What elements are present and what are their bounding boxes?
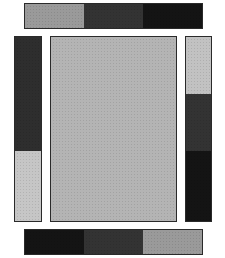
right-column-segment-2 [186, 94, 211, 150]
center-panel-segment-1 [51, 37, 176, 221]
top-bar-segment-1 [25, 4, 84, 28]
bottom-bar-segment-1 [25, 230, 84, 254]
right-column-segment-1 [186, 37, 211, 94]
bottom-bar [24, 229, 203, 255]
top-bar-segment-2 [84, 4, 142, 28]
left-column [14, 36, 42, 222]
bottom-bar-segment-2 [84, 230, 142, 254]
bottom-bar-segment-3 [143, 230, 202, 254]
top-bar [24, 3, 203, 29]
center-panel [50, 36, 177, 222]
top-bar-segment-3 [143, 4, 202, 28]
left-column-segment-1 [15, 37, 41, 151]
right-column-segment-3 [186, 151, 211, 221]
left-column-segment-2 [15, 151, 41, 221]
right-column [185, 36, 212, 222]
